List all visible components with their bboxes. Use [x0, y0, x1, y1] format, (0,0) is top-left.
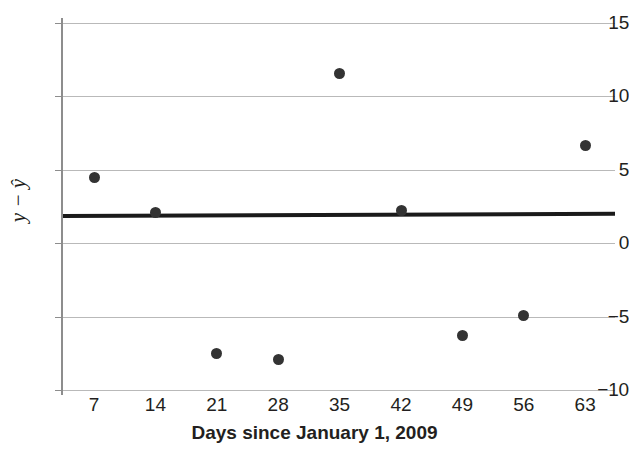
data-point: [396, 205, 407, 216]
x-tick-label: 56: [499, 395, 549, 414]
y-axis-title: y − ŷ: [6, 161, 31, 241]
x-tick-label: 49: [437, 395, 487, 414]
data-point: [580, 140, 591, 151]
y-tick-minus5: [55, 317, 62, 318]
y-tick-label: 15: [583, 13, 629, 32]
residual-scatter-chart: 15 10 5 0 −5 −10 7 14 21 28 35 42 49 56 …: [0, 0, 629, 453]
plot-area: [62, 23, 615, 390]
y-tick-10: [55, 96, 62, 97]
x-tick-label: 63: [560, 395, 610, 414]
y-tick-label: 0: [583, 233, 629, 252]
x-tick-label: 42: [376, 395, 426, 414]
data-point: [211, 348, 222, 359]
x-tick-label: 21: [192, 395, 242, 414]
data-point: [273, 354, 284, 365]
y-axis-line: [61, 18, 63, 395]
mean-residual-line: [62, 212, 615, 218]
data-point: [457, 330, 468, 341]
gridline-10: [62, 96, 615, 97]
x-tick-label: 35: [315, 395, 365, 414]
y-tick-label: −5: [583, 307, 629, 326]
y-tick-label: 5: [583, 160, 629, 179]
y-tick-label: 10: [583, 86, 629, 105]
data-point: [518, 310, 529, 321]
x-axis-title: Days since January 1, 2009: [0, 422, 629, 444]
data-point: [89, 172, 100, 183]
gridline-minus10: [62, 390, 615, 391]
y-tick-15: [55, 23, 62, 24]
y-tick-5: [55, 170, 62, 171]
data-point: [150, 207, 161, 218]
gridline-minus5: [62, 317, 615, 318]
y-tick-minus10: [55, 390, 62, 391]
y-tick-0: [55, 243, 62, 244]
data-point: [334, 68, 345, 79]
x-tick-label: 7: [69, 395, 119, 414]
gridline-0: [62, 243, 615, 244]
gridline-5: [62, 170, 615, 171]
gridline-15: [62, 23, 615, 24]
x-tick-label: 14: [130, 395, 180, 414]
x-tick-label: 28: [253, 395, 303, 414]
